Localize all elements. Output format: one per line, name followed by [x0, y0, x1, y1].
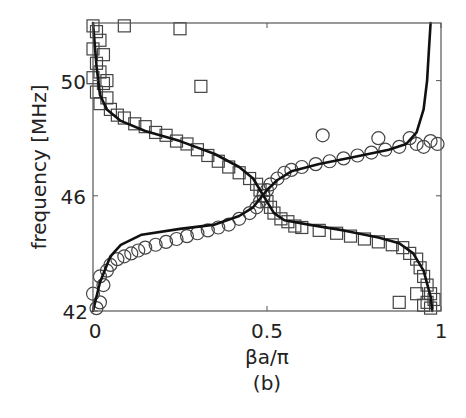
x-axis-label: βa/π [245, 345, 289, 369]
square-marker [195, 80, 207, 92]
dispersion-chart: 50 46 42 0 0.5 1 βa/π frequency [MHz] (b… [0, 0, 466, 418]
measured-lower-branch-circles [87, 129, 445, 315]
y-tick-label-42: 42 [63, 300, 88, 324]
theory-curve-1 [93, 23, 432, 311]
axis-ticks [93, 23, 441, 311]
square-marker [118, 20, 130, 32]
plot-area [87, 20, 445, 315]
x-tick-label-1: 1 [435, 319, 448, 343]
circle-marker [372, 132, 385, 145]
y-tick-label-50: 50 [61, 70, 86, 94]
square-marker [101, 75, 113, 87]
figure-caption: (b) [253, 371, 281, 395]
x-tick-label-0: 0 [89, 319, 102, 343]
y-axis-label: frequency [MHz] [27, 84, 51, 249]
square-marker [174, 23, 186, 35]
circle-marker [132, 244, 145, 257]
axes-frame [93, 23, 441, 311]
x-tick-label-0.5: 0.5 [251, 319, 283, 343]
circle-marker [125, 247, 138, 260]
theory-curve-2 [93, 23, 431, 311]
circle-marker [118, 250, 131, 263]
circle-marker [431, 137, 444, 150]
square-marker [393, 296, 405, 308]
measured-upper-branch-squares [87, 20, 440, 314]
circle-marker [316, 129, 329, 142]
y-tick-label-46: 46 [61, 185, 86, 209]
